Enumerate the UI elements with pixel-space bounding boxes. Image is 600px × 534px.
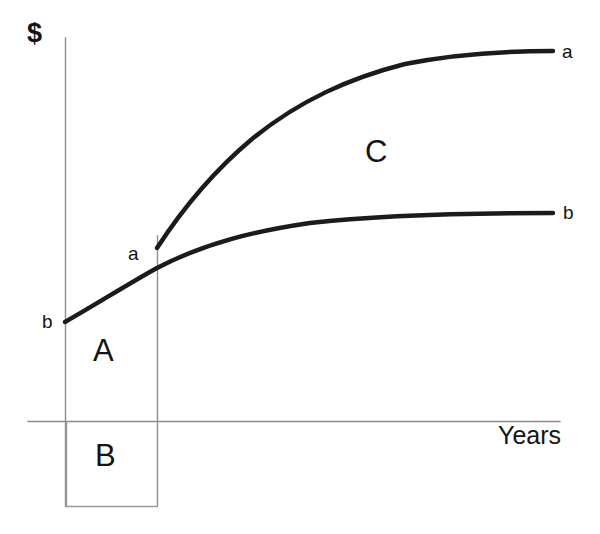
upper-curve-end-label-a: a [562,42,573,61]
x-axis-label: Years [498,423,561,448]
branch-point-label-a: a [128,244,139,263]
region-label-b: B [95,440,116,471]
chart-canvas [0,0,600,534]
lower-curve-end-label-b: b [563,203,574,222]
origin-label-b: b [42,312,53,331]
region-label-c: C [365,136,387,167]
lower-curve-b [65,213,553,322]
y-axis-label: $ [27,20,42,47]
figure-root: $ Years a b a b A B C [0,0,600,534]
region-label-a: A [93,335,114,366]
